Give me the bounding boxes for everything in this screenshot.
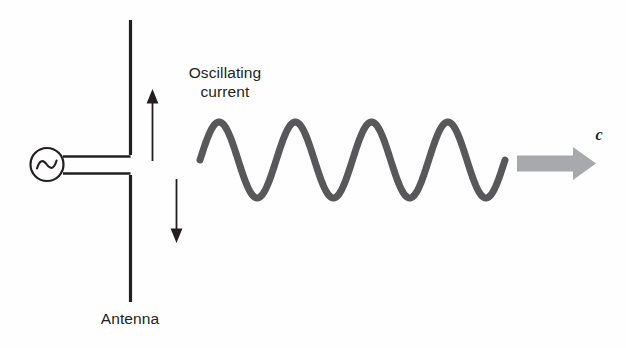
speed-of-light-label: c [586,126,612,144]
ac-source-icon [31,148,64,181]
current-arrow-up [147,89,159,161]
current-arrow-down-head [171,229,183,244]
antenna-label: Antenna [70,309,190,328]
current-arrow-up-head [147,89,159,104]
current-arrow-down [171,179,183,243]
electromagnetic-wave [200,122,505,198]
diagram-canvas: Oscillating current Antenna c [0,0,626,348]
feed-wires [63,157,131,174]
propagation-block-arrow [517,147,596,180]
diagram-svg [0,0,626,348]
oscillating-current-label: Oscillating current [160,63,290,101]
